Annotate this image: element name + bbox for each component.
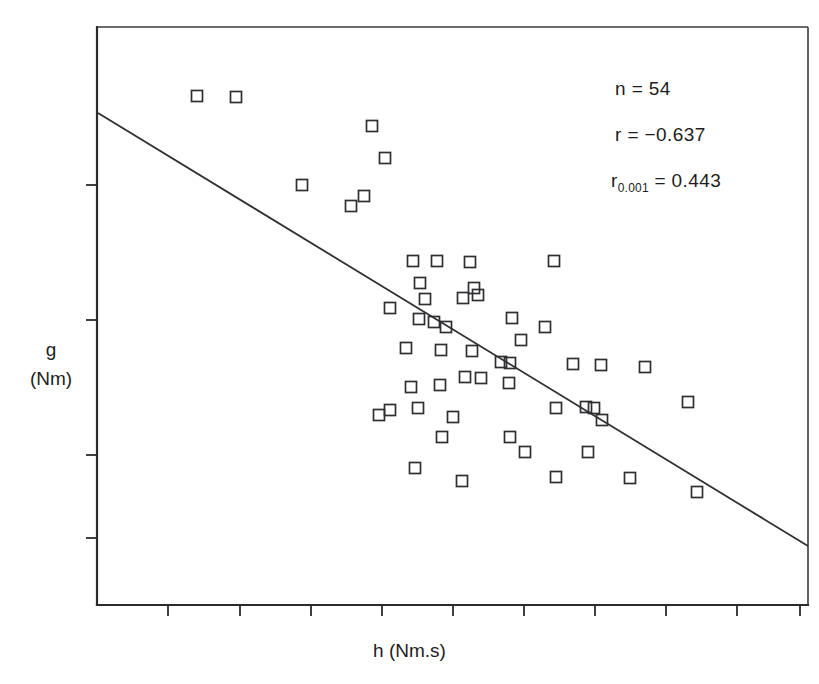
data-point-marker (583, 447, 594, 458)
data-point-marker (408, 256, 419, 267)
y-axis-label-symbol: g (8, 335, 94, 364)
plot-frame (97, 27, 808, 605)
data-point-marker (465, 257, 476, 268)
data-point-marker (549, 256, 560, 267)
data-point-marker (692, 487, 703, 498)
data-point-marker (467, 346, 478, 357)
data-point-marker (437, 432, 448, 443)
critical-r-prefix: r (611, 170, 618, 191)
data-point-marker (568, 359, 579, 370)
y-axis-label-units: (Nm) (8, 364, 94, 393)
data-point-marker (683, 397, 694, 408)
data-point-marker (410, 463, 421, 474)
data-point-marker (504, 378, 515, 389)
data-point-marker (385, 303, 396, 314)
data-point-marker (460, 372, 471, 383)
critical-r-value: = 0.443 (649, 170, 721, 191)
data-point-marker (401, 343, 412, 354)
data-point-marker (507, 313, 518, 324)
data-point-marker (458, 293, 469, 304)
annotation-correlation: r = −0.637 (615, 124, 706, 146)
data-point-marker (625, 473, 636, 484)
data-point-marker (413, 403, 424, 414)
data-point-marker (448, 412, 459, 423)
data-point-marker (380, 153, 391, 164)
data-point-marker (374, 410, 385, 421)
data-point-marker (420, 294, 431, 305)
data-point-marker (551, 472, 562, 483)
data-point-marker (297, 180, 308, 191)
x-axis-label: h (Nm.s) (0, 640, 819, 662)
data-point-marker (192, 91, 203, 102)
data-point-marker (436, 345, 447, 356)
data-point-marker (346, 201, 357, 212)
data-point-marker (414, 314, 425, 325)
data-point-marker (540, 322, 551, 333)
data-point-marker (505, 432, 516, 443)
y-axis-label: g (Nm) (8, 335, 94, 394)
data-point-marker (406, 382, 417, 393)
data-point-marker (596, 360, 607, 371)
data-point-markers (192, 91, 703, 498)
data-point-marker (520, 447, 531, 458)
data-point-marker (469, 283, 480, 294)
data-point-marker (457, 476, 468, 487)
annotation-critical-r: r0.001 = 0.443 (611, 170, 721, 195)
data-point-marker (435, 380, 446, 391)
data-point-marker (640, 362, 651, 373)
data-point-marker (516, 335, 527, 346)
data-point-marker (385, 405, 396, 416)
annotation-sample-size: n = 54 (615, 78, 671, 100)
data-point-marker (367, 121, 378, 132)
data-point-marker (359, 191, 370, 202)
data-point-marker (415, 278, 426, 289)
critical-r-subscript: 0.001 (618, 181, 649, 195)
scatter-plot-figure: n = 54 r = −0.637 r0.001 = 0.443 g (Nm) … (0, 0, 819, 684)
plot-canvas (0, 0, 819, 684)
data-point-marker (432, 256, 443, 267)
data-point-marker (476, 373, 487, 384)
data-point-marker (473, 290, 484, 301)
data-point-marker (551, 403, 562, 414)
data-point-marker (231, 92, 242, 103)
